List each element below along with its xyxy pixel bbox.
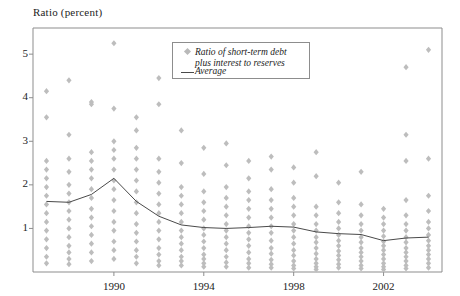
legend-item-average: Average xyxy=(179,66,226,77)
chart-legend: Ratio of short-term debt plus interest t… xyxy=(172,42,310,79)
x-tick-label: 1994 xyxy=(179,280,229,292)
legend-label-average: Average xyxy=(195,66,226,77)
x-tick-label: 1990 xyxy=(89,280,139,292)
y-tick-label: 4 xyxy=(6,90,28,102)
y-tick-label: 2 xyxy=(6,177,28,189)
x-tick-label: 2002 xyxy=(359,280,409,292)
x-tick-label: 1998 xyxy=(269,280,319,292)
legend-item-scatter: Ratio of short-term debt plus interest t… xyxy=(179,47,287,68)
diamond-marker-icon xyxy=(179,47,195,54)
x-axis-ticks xyxy=(114,272,384,276)
legend-label-scatter: Ratio of short-term debt plus interest t… xyxy=(195,47,287,68)
y-tick-label: 3 xyxy=(6,134,28,146)
line-marker-icon xyxy=(179,66,195,73)
y-axis-ticks xyxy=(29,54,33,228)
y-tick-label: 1 xyxy=(6,221,28,233)
chart-figure: Ratio (percent) 12345 1990199419982002 R… xyxy=(0,0,460,296)
average-line xyxy=(46,178,428,240)
y-tick-label: 5 xyxy=(6,47,28,59)
